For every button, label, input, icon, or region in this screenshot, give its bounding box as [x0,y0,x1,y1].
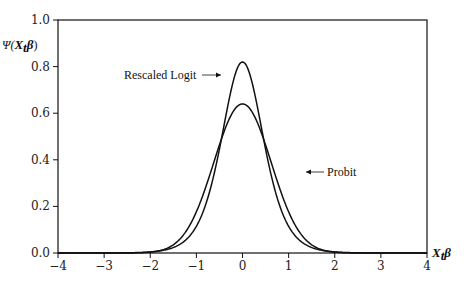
probit-arrowhead [306,170,311,175]
y-tick-label: 0.2 [31,199,50,213]
x-tick-label: −2 [141,259,159,273]
probit-curve [58,104,427,253]
x-tick-label: 3 [377,259,385,273]
x-tick-label: 1 [285,259,293,273]
y-tick-label: 1.0 [31,13,50,27]
probit-annotation: Probit [327,165,357,179]
y-axis-label: Ψ(Xtβ) [2,37,37,55]
logit-arrowhead [216,73,221,78]
x-axis-label: Xtβ [431,245,451,263]
x-tick-label: −3 [95,259,113,273]
logit-curve [58,62,427,253]
x-tick-label: 2 [331,259,339,273]
y-tick-label: 0.8 [31,60,50,74]
plot-frame [58,20,427,253]
y-tick-label: 0.4 [31,153,50,167]
x-tick-label: 0 [239,259,247,273]
x-tick-label: −4 [49,259,67,273]
y-tick-label: 0.0 [31,246,50,260]
y-tick-label: 0.6 [31,106,50,120]
x-tick-label: −1 [188,259,206,273]
x-tick-label: 4 [423,259,431,273]
plot-area: −4−3−2−1012340.00.20.40.60.81.0 [31,13,431,273]
logit-annotation: Rescaled Logit [124,68,197,82]
chart: −4−3−2−1012340.00.20.40.60.81.0 Rescaled… [0,0,467,287]
